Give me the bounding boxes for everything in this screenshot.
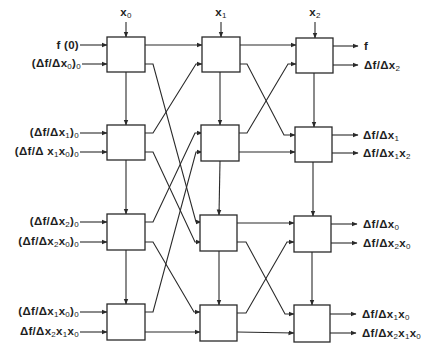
node-box-c2-r1 (202, 37, 240, 72)
input-label-6: (Δf/Δx2x0)0 (18, 235, 79, 247)
top-label-x1: x1 (206, 6, 236, 18)
node-box-c1-r3 (107, 214, 145, 250)
input-label-4: (Δf/Δ x1x0)0 (15, 145, 79, 157)
output-label-1: f (364, 40, 368, 52)
link-c1r4-c2r2 (145, 152, 202, 312)
link-c2r2-c3r1 (239, 64, 296, 133)
output-label-2: Δf/Δx2 (364, 59, 400, 71)
output-label-5: Δf/Δx0 (363, 218, 399, 230)
node-box-c1-r2 (107, 125, 145, 160)
node-box-c2-r4 (200, 305, 237, 341)
node-box-c3-r4 (294, 305, 330, 342)
top-label-x2: x2 (300, 6, 330, 18)
input-label-2: (Δf/Δx0)0 (32, 57, 81, 69)
output-label-3: Δf/Δx1 (363, 129, 399, 141)
output-label-4: Δf/Δx1x2 (363, 147, 411, 159)
node-box-c3-r3 (294, 216, 331, 252)
network-diagram (0, 0, 431, 351)
link-c1r3-c2r2 (145, 133, 202, 222)
input-label-1: f (0) (56, 39, 79, 51)
link-c2r4-c3r4 (237, 332, 294, 333)
node-box-c2-r3 (200, 215, 237, 251)
node-box-c1-r4 (107, 304, 145, 340)
input-label-7: (Δf/Δx1x0)0 (18, 305, 79, 317)
link-c1r1-c2r3 (145, 64, 201, 222)
node-box-c2-r2 (201, 125, 239, 161)
vertical-link-c2-r2-r3 (219, 161, 220, 215)
link-c2r3-c3r4 (237, 242, 294, 314)
input-label-3: (Δf/Δx1)0 (30, 126, 79, 138)
output-label-8: Δf/Δx2x1x0 (362, 327, 421, 339)
node-box-c3-r2 (295, 127, 332, 162)
output-label-6: Δf/Δx2x0 (363, 237, 411, 249)
output-label-7: Δf/Δx1x0 (362, 308, 410, 320)
node-box-c1-r1 (107, 37, 145, 72)
input-label-5: (Δf/Δx2)0 (30, 215, 79, 227)
top-label-x0: x0 (111, 6, 141, 18)
node-box-c3-r1 (296, 38, 333, 73)
link-c1r3-c2r4 (145, 242, 200, 312)
input-label-8: Δf/Δx2x1x0 (20, 325, 79, 337)
link-c1r2-c2r1 (145, 64, 202, 133)
